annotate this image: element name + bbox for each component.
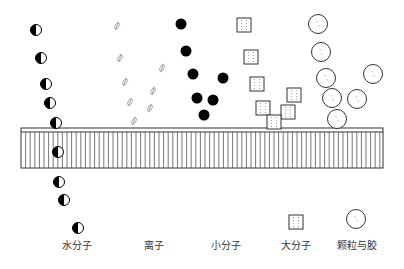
large-molecule-icon <box>244 50 258 64</box>
particle-colloid-icon <box>347 210 366 229</box>
particle-colloid-icon <box>348 90 367 109</box>
particle-colloid-icon <box>364 65 383 84</box>
particle-colloid-icon <box>328 110 347 129</box>
water-molecule-icon <box>41 79 52 90</box>
legend-label-particle-colloid: 颗粒与胶 <box>337 237 377 252</box>
large-molecule-icon <box>256 101 270 115</box>
ion-icon <box>130 117 138 126</box>
water-molecule-icon <box>73 223 84 234</box>
small-molecule-icon <box>208 95 219 106</box>
ion-icon <box>158 64 166 73</box>
ions <box>113 22 166 126</box>
ion-icon <box>116 54 124 63</box>
large-molecule-icon <box>267 115 281 129</box>
large-molecules <box>237 18 301 129</box>
large-molecule-icon <box>281 105 295 119</box>
water-molecule-icon <box>53 147 64 158</box>
legend-label-large-molecule: 大分子 <box>281 237 311 252</box>
water-molecule-icon <box>51 118 62 129</box>
small-molecule-icon <box>176 19 187 30</box>
particle-colloid-icon <box>317 69 336 88</box>
small-molecule-icon <box>218 73 229 84</box>
particle-colloid-icon <box>323 89 342 108</box>
legend <box>73 210 366 234</box>
small-molecules <box>176 19 229 121</box>
water-molecule-icon <box>54 177 65 188</box>
particle-colloid-icon <box>312 43 331 62</box>
diagram-canvas <box>0 0 404 269</box>
particle-colloid-icon <box>309 15 328 34</box>
membrane-body <box>21 128 383 168</box>
particles <box>309 15 383 129</box>
small-molecule-icon <box>192 93 203 104</box>
water-molecule-icon <box>31 25 42 36</box>
ion-icon <box>146 104 154 113</box>
large-molecule-icon <box>287 88 301 102</box>
membrane-filtration-diagram: 水分子 离子 小分子 大分子 颗粒与胶 <box>0 0 404 269</box>
water-molecule-icon <box>36 53 47 64</box>
ion-icon <box>121 78 129 87</box>
large-molecule-icon <box>289 215 303 229</box>
water-molecule-icon <box>45 98 56 109</box>
ion-icon <box>126 98 134 107</box>
small-molecule-icon <box>188 69 199 80</box>
ion-icon <box>113 22 121 31</box>
legend-label-small-molecule: 小分子 <box>211 237 241 252</box>
ion-icon <box>149 87 157 96</box>
small-molecule-icon <box>181 46 192 57</box>
large-molecule-icon <box>250 77 264 91</box>
water-molecules <box>31 25 70 206</box>
legend-label-water: 水分子 <box>62 237 92 252</box>
large-molecule-icon <box>237 18 251 32</box>
legend-label-ion: 离子 <box>144 237 164 252</box>
membrane <box>21 128 383 168</box>
water-molecule-icon <box>59 195 70 206</box>
small-molecule-icon <box>199 110 210 121</box>
